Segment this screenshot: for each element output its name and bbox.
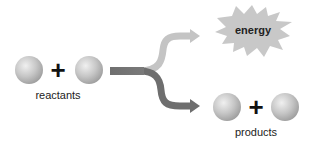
reactants-plus-sign: +	[50, 55, 65, 85]
products-arrowhead	[190, 99, 200, 113]
energy-arrow	[140, 36, 192, 71]
energy-starburst: energy	[215, 5, 292, 57]
reactant-sphere-2	[75, 56, 103, 84]
products-plus-sign: +	[248, 92, 263, 122]
products-group: + products	[213, 92, 299, 138]
energy-arrowhead	[190, 29, 200, 43]
reactants-group: + reactants	[15, 55, 103, 101]
product-sphere-2	[271, 93, 299, 121]
energy-label: energy	[235, 24, 272, 36]
reaction-arrow-stem	[110, 67, 144, 75]
reactants-label: reactants	[35, 89, 81, 101]
products-arrow	[140, 71, 192, 106]
product-sphere-1	[213, 93, 241, 121]
products-label: products	[235, 126, 278, 138]
reactant-sphere-1	[15, 56, 43, 84]
reaction-diagram: + reactants energy + products	[0, 0, 311, 148]
